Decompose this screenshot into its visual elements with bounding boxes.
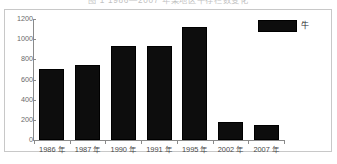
x-axis-tick-mark (141, 141, 142, 144)
y-axis-tick-mark (33, 80, 36, 81)
x-axis-tick-label: 1995 年 (177, 145, 213, 154)
y-axis-tick-label: 600 (21, 75, 33, 84)
y-axis-tick-label: 400 (21, 95, 33, 104)
bar (75, 65, 100, 140)
x-axis-tick-label: 1991 年 (141, 145, 177, 154)
y-axis-tick-label: 1000 (17, 34, 33, 43)
x-axis-tick-label: 1987 年 (70, 145, 106, 154)
y-axis-tick-label: 800 (21, 54, 33, 63)
y-axis-tick: 1200 (0, 19, 40, 20)
x-axis-tick-label: 2007 年 (248, 145, 284, 154)
x-axis-tick-mark (248, 141, 249, 144)
y-axis-tick: 200 (0, 120, 40, 121)
bar (147, 46, 172, 140)
bar (111, 46, 136, 140)
x-axis-tick-mark (213, 141, 214, 144)
y-axis-tick: 400 (0, 100, 40, 101)
y-axis-tick-label: 200 (21, 115, 33, 124)
legend-swatch-icon (258, 20, 297, 32)
y-axis-tick-mark (33, 39, 36, 40)
y-axis-tick-mark (33, 19, 36, 20)
bar (182, 27, 207, 140)
x-axis-tick-label: 1986 年 (34, 145, 70, 154)
chart-legend: 牛 (258, 19, 309, 33)
x-axis-tick-mark (34, 141, 35, 144)
x-axis-tick-mark (284, 141, 285, 144)
y-axis-tick-mark (33, 120, 36, 121)
bar (218, 122, 243, 140)
x-axis-tick-mark (105, 141, 106, 144)
y-axis-tick: 1000 (0, 39, 40, 40)
x-axis-tick-mark (177, 141, 178, 144)
y-axis-tick-label: 1200 (17, 14, 33, 23)
legend-label: 牛 (301, 21, 309, 31)
bar (39, 69, 64, 140)
y-axis-tick-mark (33, 100, 36, 101)
x-axis-line (33, 140, 285, 141)
bar (254, 125, 279, 140)
figure-caption: 图 1 1986—2007 年某地区牛存栏数变化 (0, 0, 337, 6)
y-axis-tick: 600 (0, 80, 40, 81)
y-axis-tick: 800 (0, 59, 40, 60)
x-axis-tick-mark (70, 141, 71, 144)
y-axis-tick-mark (33, 59, 36, 60)
x-axis-tick-label: 1990 年 (105, 145, 141, 154)
bar-chart-figure: 图 1 1986—2007 年某地区牛存栏数变化 120010008006004… (0, 0, 337, 164)
x-axis-tick-label: 2002 年 (213, 145, 249, 154)
